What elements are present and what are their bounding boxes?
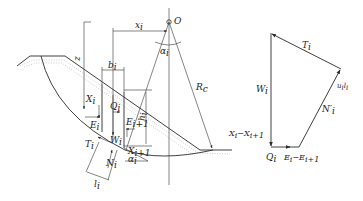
ground-surface — [17, 56, 232, 150]
svg-text:Ei−Ei+1: Ei−Ei+1 — [283, 153, 319, 164]
svg-text:z: z — [72, 56, 82, 62]
slope-stability-figure: O xi αi z bi Rc Xi Qi Ei Wi — [0, 0, 363, 201]
svg-text:Ni: Ni — [105, 158, 117, 170]
svg-text:αi: αi — [160, 46, 169, 58]
slope-diagram: O xi αi z bi Rc Xi Qi Ei Wi — [17, 8, 232, 191]
svg-text:xi: xi — [135, 20, 143, 32]
svg-text:Wi: Wi — [256, 84, 268, 96]
svg-text:Ti: Ti — [85, 139, 94, 151]
svg-text:Rc: Rc — [195, 82, 208, 94]
svg-text:Xi: Xi — [85, 94, 95, 106]
svg-text:Ei: Ei — [89, 120, 100, 132]
svg-text:uili: uili — [337, 82, 348, 92]
force-polygon: Ti uili Wi N′i Xi−Xi+1 Qi Ei−Ei+1 — [228, 33, 348, 164]
svg-text:αi: αi — [128, 154, 137, 166]
svg-text:li: li — [94, 179, 100, 191]
center-label: O — [174, 16, 182, 26]
svg-text:Qi: Qi — [110, 101, 120, 113]
svg-text:N′i: N′i — [321, 104, 335, 116]
svg-text:Xi−Xi+1: Xi−Xi+1 — [228, 129, 264, 140]
svg-text:Qi: Qi — [266, 152, 276, 164]
